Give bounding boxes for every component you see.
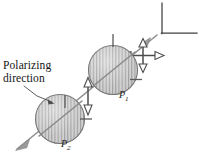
source-frame-bracket [161,3,197,34]
label-polarizer-p1: P1 [119,89,129,103]
polarization-figure: Polarizing direction P1 P2 [0,0,199,160]
caption-line-2: direction [3,72,51,85]
beam-axis-line [16,35,158,151]
polarizer-disk-p2 [36,95,93,144]
label-polarizer-p2: P2 [61,138,71,152]
caption-line-1: Polarizing [3,59,51,72]
polarizer-disk-p1 [89,34,143,95]
leader-line-polarizing-direction [24,86,55,105]
polarizing-direction-caption: Polarizing direction [3,59,51,85]
label-p2-subscript: 2 [67,144,71,152]
polarized-light-arrow [84,78,92,116]
label-p1-subscript: 1 [125,95,129,103]
